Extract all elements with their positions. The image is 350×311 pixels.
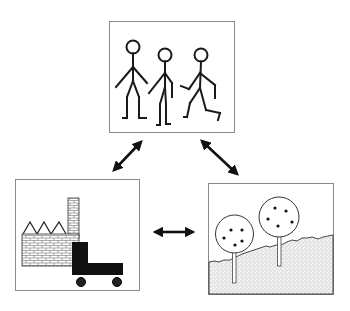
brick-factory-icon: [22, 234, 79, 266]
panel-environment: [209, 184, 334, 295]
panel-people-border: [110, 22, 235, 133]
panel-industry: [16, 180, 140, 291]
arrow-people-environment-icon: [204, 143, 235, 172]
arrow-people-industry-icon: [116, 144, 139, 168]
diagram-canvas: People Industry Environment: [0, 0, 350, 311]
chimney-icon: [68, 198, 79, 238]
panel-people: [110, 22, 235, 133]
diagram-svg: [0, 0, 350, 311]
